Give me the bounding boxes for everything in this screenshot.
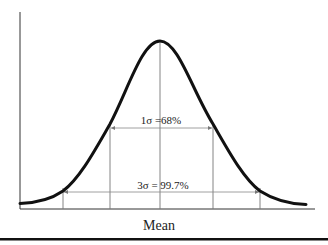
normal-distribution-diagram: 1σ =68% 3σ = 99.7% Mean bbox=[0, 0, 328, 245]
x-axis-label: Mean bbox=[143, 218, 175, 233]
one-sigma-label: 1σ =68% bbox=[141, 114, 182, 126]
bottom-rule bbox=[0, 238, 328, 241]
three-sigma-label: 3σ = 99.7% bbox=[137, 179, 189, 191]
